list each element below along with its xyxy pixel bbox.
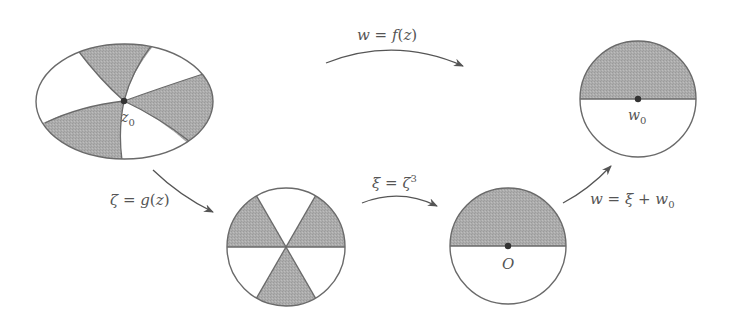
label-w-equals-xi-plus-w0: w = ξ + w0 (590, 192, 675, 210)
label-w0: w0 (628, 108, 646, 126)
label-w-equals-f-z: w = f(z) (357, 28, 417, 43)
label-z0: z0 (121, 110, 135, 128)
w0-point (635, 96, 641, 102)
xi-disk (450, 188, 566, 304)
conformal-map-diagram (0, 0, 732, 327)
label-zeta-equals-g-z: ζ = g(z) (110, 193, 169, 208)
w-shaded-upper-half (580, 41, 696, 99)
arrow-cube (362, 196, 437, 206)
z-domain-ellipse (30, 38, 215, 165)
xi-shaded-upper-half (450, 188, 566, 246)
arrow-f (326, 50, 463, 66)
label-xi-equals-zeta-cubed: ξ = ζ3 (372, 174, 417, 191)
label-part: w (357, 26, 370, 44)
z0-point (121, 98, 127, 104)
label-origin-O: O (502, 257, 514, 272)
zeta-disk (227, 188, 345, 306)
w-disk (580, 41, 696, 157)
origin-point (505, 243, 511, 249)
